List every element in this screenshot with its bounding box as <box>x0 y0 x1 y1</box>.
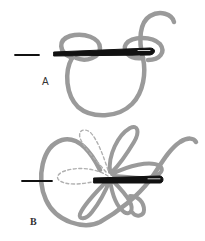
petal-lower-left-icon <box>80 180 110 218</box>
panel-b-label: B <box>30 216 37 227</box>
dashed-petal-upper-icon <box>80 130 108 172</box>
panel-a-drawing <box>15 13 174 115</box>
stitch-illustration <box>0 0 205 241</box>
needle-b-icon <box>94 176 163 183</box>
panel-b-drawing <box>22 127 196 225</box>
thread-big-loop-icon <box>67 58 144 115</box>
panel-a-label: A <box>42 76 49 87</box>
stitch-diagram: A B <box>0 0 205 241</box>
needle-icon <box>54 48 155 56</box>
